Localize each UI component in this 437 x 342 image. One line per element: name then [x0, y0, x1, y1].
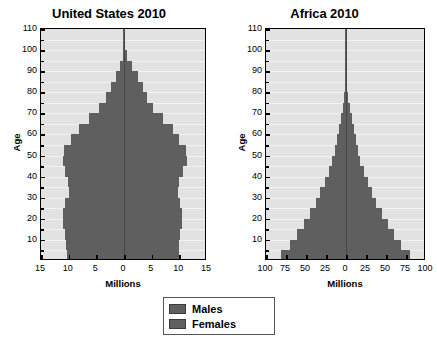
bar-males-age-10: [297, 229, 346, 240]
y-tick-mark: [266, 61, 269, 63]
y-tick-mark: [41, 103, 44, 105]
x-tick-label: 75: [280, 263, 290, 273]
y-tick-mark: [41, 208, 44, 210]
y-tick-mark: [41, 187, 44, 189]
center-axis-line: [124, 29, 125, 259]
bar-males-age-5: [66, 240, 124, 251]
x-tick-mark: [406, 255, 408, 259]
bar-females-age-10: [346, 229, 394, 240]
x-tick-mark: [266, 255, 268, 259]
bar-males-age-65: [89, 113, 124, 124]
y-tick-mark: [266, 229, 269, 231]
bar-males-age-5: [290, 240, 346, 251]
y-tick-label: 70: [27, 107, 37, 117]
y-tick-label: 40: [252, 171, 262, 181]
bar-females-age-45: [124, 156, 187, 167]
y-tick-label: 40: [27, 171, 37, 181]
x-tick-mark: [206, 255, 207, 259]
legend-label-males: Males: [192, 303, 223, 315]
bar-females-age-15: [346, 219, 388, 230]
bar-males-age-50: [64, 145, 124, 156]
bar-females-age-75: [124, 92, 147, 103]
bar-males-age-25: [316, 198, 346, 209]
y-tick-mark: [41, 71, 45, 73]
x-tick-label: 25: [320, 263, 330, 273]
y-tick-mark: [41, 29, 45, 31]
bar-females-age-55: [124, 134, 179, 145]
bar-males-age-40: [329, 166, 346, 177]
y-tick-mark: [41, 229, 44, 231]
bar-males-age-55: [337, 134, 346, 145]
y-tick-label: 10: [27, 234, 37, 244]
x-axis-united-states: 15105051015: [40, 263, 206, 277]
y-tick-mark: [266, 156, 270, 158]
y-tick-mark: [266, 198, 270, 200]
x-tick-mark: [326, 255, 328, 259]
y-tick-label: 90: [27, 65, 37, 75]
bar-males-age-25: [65, 198, 124, 209]
y-tick-label: 80: [252, 86, 262, 96]
y-tick-mark: [41, 92, 45, 94]
y-tick-mark: [41, 240, 45, 242]
y-tick-mark: [266, 177, 270, 179]
y-tick-mark: [266, 250, 269, 252]
x-tick-label: 0: [342, 263, 347, 273]
x-tick-label: 5: [148, 263, 153, 273]
x-tick-mark: [124, 255, 126, 259]
y-tick-label: 70: [252, 107, 262, 117]
bar-females-age-60: [346, 124, 354, 135]
bar-females-age-90: [124, 61, 132, 72]
bar-females-age-85: [124, 71, 138, 82]
x-tick-label: 50: [380, 263, 390, 273]
y-tick-mark: [266, 145, 269, 147]
y-axis-title-united-states: Age: [11, 115, 22, 171]
y-tick-mark: [266, 240, 270, 242]
legend-item-males: Males: [169, 301, 269, 316]
y-tick-label: 90: [252, 65, 262, 75]
legend-label-females: Females: [192, 318, 236, 330]
bar-females-age-45: [346, 156, 360, 167]
bar-females-age-65: [124, 113, 163, 124]
y-tick-mark: [266, 92, 270, 94]
bar-females-age-5: [124, 240, 179, 251]
center-axis-line: [346, 29, 347, 259]
x-tick-mark: [306, 255, 308, 259]
y-tick-mark: [266, 82, 269, 84]
bar-males-age-30: [320, 187, 346, 198]
y-tick-label: 50: [27, 150, 37, 160]
x-tick-label: 100: [417, 263, 432, 273]
bar-males-age-75: [106, 92, 124, 103]
x-tick-mark: [179, 255, 181, 259]
y-tick-mark: [266, 50, 270, 52]
y-tick-label: 50: [252, 150, 262, 160]
x-tick-label: 15: [201, 263, 211, 273]
y-tick-mark: [266, 219, 270, 221]
y-tick-label: 110: [23, 23, 37, 33]
y-tick-mark: [266, 208, 269, 210]
bar-males-age-35: [68, 177, 124, 188]
x-tick-mark: [69, 255, 71, 259]
x-tick-mark: [366, 255, 368, 259]
bar-males-age-30: [69, 187, 124, 198]
y-tick-mark: [41, 134, 45, 136]
bar-females-age-25: [124, 198, 180, 209]
bar-males-age-20: [63, 208, 124, 219]
bar-females-age-20: [124, 208, 182, 219]
y-tick-mark: [41, 61, 44, 63]
bar-females-age-25: [346, 198, 376, 209]
bar-females-age-0: [346, 250, 410, 260]
bar-males-age-50: [335, 145, 346, 156]
bar-females-age-55: [346, 134, 356, 145]
bar-females-age-70: [124, 103, 153, 114]
bar-males-age-60: [79, 124, 124, 135]
x-tick-label: 10: [173, 263, 183, 273]
y-tick-mark: [266, 103, 269, 105]
y-tick-label: 100: [22, 44, 37, 54]
x-tick-mark: [152, 255, 154, 259]
bar-females-age-80: [124, 82, 143, 93]
x-tick-mark: [425, 255, 426, 259]
bar-males-age-70: [99, 103, 124, 114]
x-tick-label: 5: [93, 263, 98, 273]
y-tick-mark: [41, 145, 44, 147]
x-tick-label: 50: [300, 263, 310, 273]
